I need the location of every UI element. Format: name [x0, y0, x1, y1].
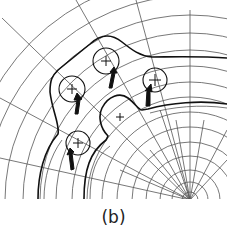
outer-contour [38, 36, 227, 199]
center-mark [116, 113, 124, 121]
figure-caption: (b) [0, 207, 227, 227]
arrow-icon [67, 148, 74, 170]
diagram-figure [0, 0, 227, 200]
arrow-icon [109, 67, 117, 88]
locator-4 [66, 131, 90, 170]
polar-grid-arcs [0, 0, 227, 200]
